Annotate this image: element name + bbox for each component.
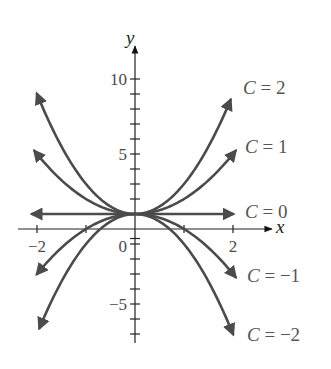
x-axis-label: x <box>275 216 285 237</box>
y-tick-label: 5 <box>119 145 128 164</box>
curve-label: C = −1 <box>247 265 300 286</box>
chart: −202105−5 C = 2C = 1C = 0C = −1C = −2 x … <box>0 0 331 369</box>
x-tick-label: −2 <box>28 237 46 256</box>
curve-c-neg1 <box>37 214 235 277</box>
y-tick-label: 10 <box>110 70 127 89</box>
curve-labels: C = 2C = 1C = 0C = −1C = −2 <box>243 77 300 345</box>
y-axis-label: y <box>124 27 135 48</box>
x-tick-label: 0 <box>119 237 128 256</box>
axes <box>18 46 272 343</box>
curve-label: C = 1 <box>245 136 287 157</box>
curves <box>32 94 235 334</box>
x-tick-label: 2 <box>229 237 238 256</box>
curve-label: C = 2 <box>243 77 285 98</box>
y-tick-label: −5 <box>109 295 127 314</box>
curve-label: C = −2 <box>247 324 300 345</box>
